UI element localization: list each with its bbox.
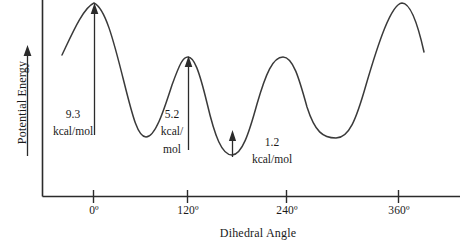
x-tick-label-240: 240º: [276, 204, 298, 216]
barrier-label-9-3: 9.3 kcal/mol: [53, 106, 93, 141]
barrier-unit-9-3: kcal/mol: [53, 123, 93, 140]
barrier-arrow-5-2: [185, 56, 193, 150]
barrier-unit-5-2-b: mol: [161, 141, 183, 158]
y-axis-title: Potential Energy: [15, 48, 30, 158]
barrier-label-5-2: 5.2 kcal/ mol: [161, 106, 183, 158]
x-tick-label-360: 360º: [388, 204, 410, 216]
x-tick-label-0: 0º: [89, 204, 99, 216]
x-axis-title: Dihedral Angle: [220, 226, 296, 241]
barrier-value-5-2: 5.2: [161, 106, 183, 123]
barrier-unit-5-2-a: kcal/: [161, 123, 183, 140]
barrier-arrow-1-2: [229, 130, 236, 157]
potential-energy-diagram: Potential Energy 0º 120º 240º 360º Dihed…: [0, 0, 470, 245]
barrier-unit-1-2: kcal/mol: [252, 151, 292, 168]
barrier-value-1-2: 1.2: [252, 134, 292, 151]
x-tick-label-120: 120º: [177, 204, 199, 216]
potential-energy-curve: [62, 3, 424, 155]
barrier-label-1-2: 1.2 kcal/mol: [252, 134, 292, 169]
barrier-value-9-3: 9.3: [53, 106, 93, 123]
